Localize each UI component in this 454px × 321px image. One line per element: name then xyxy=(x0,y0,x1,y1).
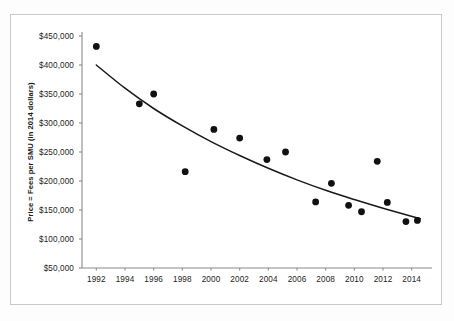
data-points-group xyxy=(93,43,421,225)
y-tick-label: $100,000 xyxy=(39,235,74,244)
x-tick-label: 1994 xyxy=(116,275,135,284)
data-point xyxy=(264,156,271,163)
x-tick-label: 2000 xyxy=(202,275,221,284)
y-tick-label: $400,000 xyxy=(39,61,74,70)
data-point xyxy=(414,217,421,224)
data-point xyxy=(384,199,391,206)
data-point xyxy=(358,208,365,215)
data-point xyxy=(136,100,143,107)
y-tick-label: $450,000 xyxy=(39,32,74,41)
y-tick-label: $250,000 xyxy=(39,148,74,157)
y-tick-label: $300,000 xyxy=(39,119,74,128)
x-tick-label: 2006 xyxy=(288,275,307,284)
x-tick-label: 1996 xyxy=(144,275,163,284)
x-tick-label: 1998 xyxy=(173,275,192,284)
trendline-curve xyxy=(96,65,420,219)
x-tick-label: 2012 xyxy=(374,275,393,284)
x-tick-label: 2002 xyxy=(230,275,249,284)
y-axis-tick-labels: $450,000$400,000$350,000$300,000$250,000… xyxy=(39,32,74,273)
x-tick-label: 1992 xyxy=(87,275,106,284)
data-point xyxy=(150,91,157,98)
y-axis-title: Price = Fees per SMU (in 2014 dollars) xyxy=(26,82,35,222)
data-point xyxy=(403,218,410,225)
x-tick-label: 2010 xyxy=(345,275,364,284)
y-tick-label: $200,000 xyxy=(39,177,74,186)
x-tick-label: 2004 xyxy=(259,275,278,284)
data-point xyxy=(236,135,243,142)
data-point xyxy=(93,43,100,50)
x-tick-label: 2008 xyxy=(316,275,335,284)
x-tick-label: 2014 xyxy=(402,275,421,284)
y-tick-label: $50,000 xyxy=(44,264,75,273)
chart-figure: $450,000$400,000$350,000$300,000$250,000… xyxy=(0,0,454,321)
data-point xyxy=(328,180,335,187)
y-tick-label: $150,000 xyxy=(39,206,74,215)
y-tick-label: $350,000 xyxy=(39,90,74,99)
data-point xyxy=(210,126,217,133)
data-point xyxy=(374,158,381,165)
scatter-plot-canvas: $450,000$400,000$350,000$300,000$250,000… xyxy=(0,0,454,321)
data-point xyxy=(312,198,319,205)
data-point xyxy=(345,202,352,209)
data-point xyxy=(282,149,289,156)
data-point xyxy=(182,168,189,175)
x-axis-tick-labels: 1992199419961998200020022004200620082010… xyxy=(87,275,421,284)
